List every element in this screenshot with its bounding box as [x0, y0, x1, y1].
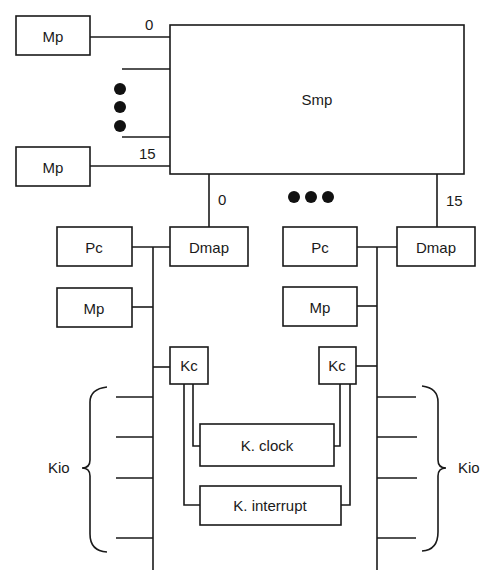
bottom-port-label-15: 15: [446, 192, 463, 209]
computer-structure-diagram: Smp Mp 0 Mp 15 0 15 Pc Dmap Mp: [0, 0, 497, 581]
svg-text:Mp: Mp: [43, 159, 64, 176]
svg-text:K. interrupt: K. interrupt: [233, 497, 307, 514]
svg-text:Mp: Mp: [84, 300, 105, 317]
svg-text:Dmap: Dmap: [189, 239, 229, 256]
brace-right: [422, 386, 446, 551]
vertical-ellipsis: [114, 83, 126, 132]
k-clock: K. clock: [193, 384, 340, 466]
port-label-15: 15: [139, 145, 156, 162]
svg-text:Kc: Kc: [180, 357, 198, 374]
smp-box: Smp: [170, 25, 464, 174]
svg-text:Pc: Pc: [311, 239, 329, 256]
brace-left: [82, 387, 107, 552]
svg-text:Kc: Kc: [328, 357, 346, 374]
svg-text:Mp: Mp: [43, 28, 64, 45]
horizontal-ellipsis: [288, 191, 334, 203]
bottom-port-label-0: 0: [218, 191, 226, 208]
port-label-0: 0: [145, 16, 153, 33]
mp-module-15: Mp 15: [16, 145, 170, 186]
svg-text:Pc: Pc: [85, 239, 103, 256]
mp-module-0: Mp 0: [16, 16, 170, 55]
svg-text:K. clock: K. clock: [241, 437, 294, 454]
kio-label-right: Kio: [458, 459, 480, 476]
kio-label-left: Kio: [48, 459, 70, 476]
svg-text:Dmap: Dmap: [416, 239, 456, 256]
svg-text:Mp: Mp: [310, 299, 331, 316]
smp-label: Smp: [302, 91, 333, 108]
